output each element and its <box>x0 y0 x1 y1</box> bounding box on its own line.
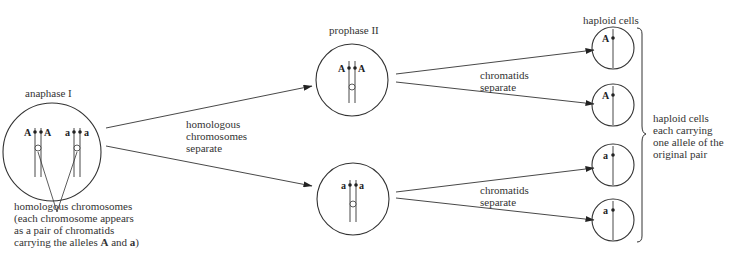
text-span: and <box>108 236 129 248</box>
allele-a-right: a <box>359 180 364 191</box>
text-line: haploid cells <box>653 112 724 124</box>
allele-a-left: a <box>65 127 70 138</box>
allele-label: a <box>603 205 608 216</box>
text-line: (each chromosome appears <box>14 212 139 224</box>
curly-bracket <box>637 28 646 242</box>
label-chromatids-separate-top: chromatids separate <box>480 69 529 93</box>
allele-A-left: A <box>24 127 32 138</box>
text-line: homologous <box>186 118 247 130</box>
allele-A-right: A <box>358 63 366 74</box>
haploid-cell-4: a <box>592 199 634 241</box>
text-line: chromatids <box>480 69 529 81</box>
haploid-cell-3: a <box>592 144 634 186</box>
label-haploid-cells: haploid cells <box>583 14 639 26</box>
allele-label: A <box>602 33 610 44</box>
label-chromatids-separate-bottom: chromatids separate <box>480 184 529 208</box>
allele-a-right: a <box>84 127 89 138</box>
text-line: as a pair of chromatids <box>14 224 139 236</box>
allele-A-left: A <box>338 63 346 74</box>
prophase-ii-bottom-cell: a a <box>317 163 389 235</box>
text-line: carrying the alleles A and a) <box>14 236 139 248</box>
allele-a-left: a <box>341 180 346 191</box>
text-line: original pair <box>653 148 724 160</box>
allele-A-right: A <box>44 127 52 138</box>
text-span: carrying the alleles <box>14 236 100 248</box>
text-line: one allele of the <box>653 136 724 148</box>
allele-label: a <box>603 150 608 161</box>
allele-label: A <box>602 90 610 101</box>
label-homologous-separate: homologous chromosomes separate <box>186 118 247 154</box>
text-line: chromatids <box>480 184 529 196</box>
bracket-note: haploid cells each carrying one allele o… <box>653 112 724 160</box>
text-line: separate <box>480 81 529 93</box>
text-line: separate <box>480 196 529 208</box>
text-line: separate <box>186 142 247 154</box>
text-line: each carrying <box>653 124 724 136</box>
text-span: ) <box>135 236 139 248</box>
haploid-cell-2: A <box>592 84 634 126</box>
prophase-ii-top-cell: A A <box>316 44 388 116</box>
label-prophase-ii: prophase II <box>329 24 379 36</box>
haploid-cell-1: A <box>592 27 634 69</box>
text-line: homologous chromosomes <box>14 200 139 212</box>
text-line: chromosomes <box>186 130 247 142</box>
anaphase-i-cell: A A a a <box>3 103 101 212</box>
annotation-homologous-chromosomes: homologous chromosomes (each chromosome … <box>14 200 139 248</box>
label-anaphase-i: anaphase I <box>25 87 72 99</box>
